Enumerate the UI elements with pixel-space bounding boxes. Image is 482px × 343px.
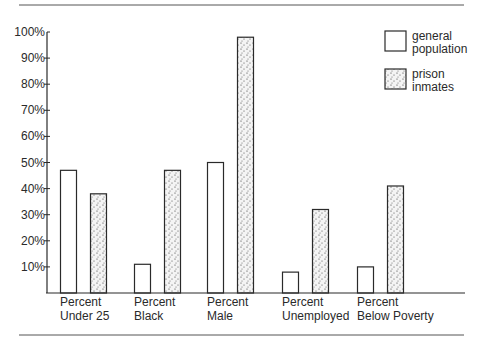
x-category-label: Unemployed [282, 309, 349, 323]
bars [61, 37, 404, 293]
bar-prison-inmates [91, 194, 107, 293]
x-category-label: Percent [134, 295, 176, 309]
x-category-label: Percent [60, 295, 102, 309]
bar-prison-inmates [165, 170, 181, 293]
bar-general-population [283, 272, 299, 293]
bar-prison-inmates [313, 209, 329, 293]
bar-general-population [208, 163, 224, 294]
x-category-label: Percent [282, 295, 324, 309]
y-tick-label: 20% [21, 234, 45, 248]
legend-swatch-prison-inmates [385, 69, 406, 89]
bar-general-population [61, 170, 77, 293]
legend-label: inmates [412, 80, 454, 94]
legend-label: prison [412, 67, 445, 81]
y-tick-label: 50% [21, 156, 45, 170]
bar-chart: 10%20%30%40%50%60%70%80%90%100% PercentU… [0, 0, 482, 343]
x-category-label: Male [207, 309, 233, 323]
x-category-label: Percent [357, 295, 399, 309]
y-tick-label: 40% [21, 182, 45, 196]
x-category-label: Black [134, 309, 164, 323]
y-axis: 10%20%30%40%50%60%70%80%90%100% [14, 25, 50, 293]
y-tick-label: 10% [21, 260, 45, 274]
y-tick-label: 80% [21, 77, 45, 91]
bar-general-population [135, 264, 151, 293]
bar-prison-inmates [238, 37, 254, 293]
y-tick-label: 60% [21, 129, 45, 143]
y-tick-label: 100% [14, 25, 45, 39]
y-tick-label: 90% [21, 51, 45, 65]
x-category-label: Percent [207, 295, 249, 309]
legend: generalpopulationprisoninmates [385, 29, 467, 94]
y-tick-label: 30% [21, 208, 45, 222]
x-category-label: Under 25 [60, 309, 110, 323]
bar-general-population [358, 267, 374, 293]
legend-label: general [412, 29, 452, 43]
y-tick-label: 70% [21, 103, 45, 117]
legend-swatch-general-population [385, 31, 406, 51]
x-axis-labels: PercentUnder 25PercentBlackPercentMalePe… [60, 295, 434, 323]
x-category-label: Below Poverty [357, 309, 434, 323]
bar-prison-inmates [388, 186, 404, 293]
legend-label: population [412, 42, 467, 56]
